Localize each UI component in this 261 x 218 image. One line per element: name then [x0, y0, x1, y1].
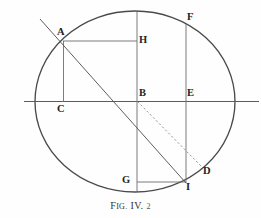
point-label-G: G — [122, 175, 130, 186]
dashed-line-B-to-D — [138, 102, 204, 169]
point-label-I: I — [186, 182, 190, 193]
point-label-H: H — [139, 35, 147, 46]
caption-fig-prefix-rest: IG. — [116, 202, 127, 211]
geometric-diagram — [0, 0, 261, 218]
point-label-C: C — [57, 104, 65, 115]
point-label-E: E — [187, 88, 194, 99]
caption-roman-numeral: IV. — [130, 200, 143, 211]
point-label-D: D — [203, 166, 211, 177]
figure-container: A B C D E F G H I FIG.IV.2 — [0, 0, 261, 218]
figure-caption: FIG.IV.2 — [0, 200, 261, 211]
point-label-B: B — [139, 88, 146, 99]
point-label-A: A — [57, 27, 65, 38]
caption-figure-number: 2 — [146, 202, 150, 211]
point-label-F: F — [187, 12, 194, 23]
